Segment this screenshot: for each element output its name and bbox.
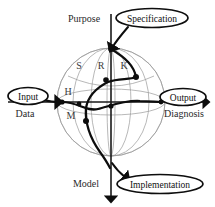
callout-input[interactable]: Input <box>8 88 58 105</box>
callout-implementation[interactable]: Implementation <box>112 163 203 194</box>
input-label: Input <box>18 92 38 102</box>
sphere-letter-H: H <box>64 86 71 97</box>
sphere-letter-R: R <box>98 60 105 71</box>
node-dot <box>77 102 82 107</box>
label-diagnosis: Diagnosis <box>164 108 204 119</box>
label-purpose: Purpose <box>68 13 101 24</box>
node-dot <box>59 99 64 104</box>
node-dot <box>133 74 139 80</box>
specification-tail <box>112 27 128 48</box>
node-dot <box>108 103 113 108</box>
callout-output[interactable]: Output <box>160 89 206 106</box>
implementation-tail <box>112 163 126 178</box>
sphere-diagram-svg: S R K H M Purpose Model Data Diagnosis S… <box>0 0 215 207</box>
callout-specification[interactable]: Specification <box>112 9 188 49</box>
label-model: Model <box>73 178 99 189</box>
label-data: Data <box>16 108 35 119</box>
output-label: Output <box>170 93 197 103</box>
node-dot <box>103 77 109 83</box>
diagram-canvas: S R K H M Purpose Model Data Diagnosis S… <box>0 0 215 207</box>
node-dot <box>83 118 89 124</box>
sphere-letter-S: S <box>76 60 82 71</box>
sphere-letter-K: K <box>120 60 128 71</box>
specification-label: Specification <box>127 14 177 24</box>
sphere-letter-M: M <box>67 110 76 121</box>
implementation-label: Implementation <box>130 180 190 190</box>
